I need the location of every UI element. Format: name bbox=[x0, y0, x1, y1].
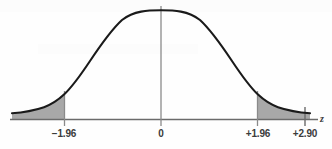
normal-distribution-plot bbox=[0, 0, 332, 149]
right-tail-fill bbox=[258, 95, 310, 120]
x-axis-name: z bbox=[320, 114, 324, 124]
tick-label-zero: 0 bbox=[158, 128, 163, 140]
normal-curve-figure: −1.96 0 +1.96 +2.90 z bbox=[0, 0, 332, 149]
tick-label-neg196: −1.96 bbox=[52, 128, 76, 140]
tick-label-pos290: +2.90 bbox=[293, 128, 317, 140]
left-tail-fill bbox=[12, 95, 64, 120]
tick-label-pos196: +1.96 bbox=[246, 128, 270, 140]
